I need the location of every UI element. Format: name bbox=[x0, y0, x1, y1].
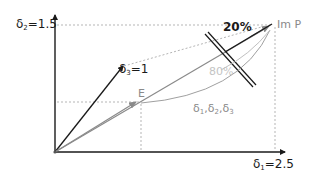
delta3-vector bbox=[55, 66, 123, 152]
origin-point bbox=[53, 150, 56, 153]
arc-label: δ1,δ2,δ3 bbox=[193, 103, 234, 116]
twenty-percent-label: 20% bbox=[223, 21, 252, 33]
x-axis-label: δ1=2.5 bbox=[253, 158, 294, 172]
arc-80 bbox=[141, 30, 270, 103]
eighty-percent-label: 80% bbox=[209, 66, 233, 77]
e-label: E bbox=[138, 88, 145, 99]
delta3-label: δ3=1 bbox=[119, 63, 149, 77]
e-vector bbox=[55, 102, 136, 152]
y-axis-label: δ2=1.5 bbox=[16, 18, 57, 32]
imp-label: Im P bbox=[277, 19, 301, 30]
